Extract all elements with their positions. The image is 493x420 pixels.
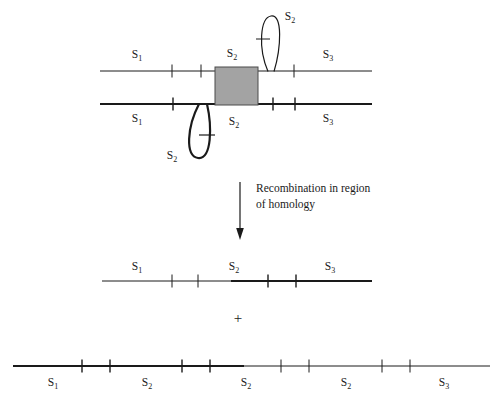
product2-label-s2-a: S2: [142, 376, 152, 391]
lower-label-s1: S1: [132, 112, 142, 127]
recombinant-product-2-group: [13, 360, 490, 373]
product1-label-s3: S3: [325, 260, 335, 275]
product1-label-s1: S1: [132, 260, 142, 275]
lower-label-s3: S3: [323, 112, 333, 127]
product2-label-s2-b: S2: [241, 376, 251, 391]
lower-label-s2: S2: [229, 115, 239, 130]
lower-chromosome-loop: [189, 104, 210, 158]
plus-separator: +: [234, 310, 242, 326]
recombination-caption-line2: of homology: [256, 198, 315, 211]
product2-label-s2-c: S2: [341, 376, 351, 391]
upper-label-s1: S1: [132, 48, 142, 63]
upper-loop-label-s2: S2: [285, 10, 295, 25]
product2-label-s1: S1: [48, 376, 58, 391]
diagram-canvas: S1 S2 S3 S2 S1 S2 S3 S2 Recombination in…: [0, 0, 493, 420]
product1-label-s2: S2: [229, 260, 239, 275]
upper-label-s3: S3: [323, 48, 333, 63]
upper-chromosome-loop: [262, 16, 280, 72]
homology-region-box: [215, 67, 258, 105]
recombination-caption-line1: Recombination in region: [256, 182, 371, 195]
recombination-arrow: [236, 182, 244, 240]
recombination-diagram: S1 S2 S3 S2 S1 S2 S3 S2 Recombination in…: [0, 0, 493, 420]
lower-loop-label-s2: S2: [167, 149, 177, 164]
recombinant-product-1-group: [102, 275, 372, 288]
upper-label-s2: S2: [227, 47, 237, 62]
product2-label-s3: S3: [439, 376, 449, 391]
